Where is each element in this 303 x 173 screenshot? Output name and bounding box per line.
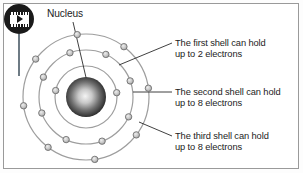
video-icon[interactable]: [4, 4, 34, 34]
nucleus-sphere: [66, 77, 106, 117]
electron-shell3-3: [92, 156, 98, 162]
electron-shell2-7: [67, 50, 73, 56]
electron-shell2-2: [63, 136, 69, 142]
third-shell-label: The third shell can hold up to 8 electro…: [175, 131, 269, 153]
nucleus-label: Nucleus: [47, 8, 83, 19]
leader-line-shell3: [139, 122, 172, 136]
electron-shell3-1: [20, 103, 26, 109]
electron-shell2-5: [127, 78, 133, 84]
play-triangle-icon: [17, 15, 23, 23]
electron-shell2-3: [99, 138, 105, 144]
electron-shell2-1: [39, 110, 45, 116]
electron-shell3-2: [45, 144, 51, 150]
electron-shell2-8: [40, 74, 46, 80]
electron-shell3-6: [121, 43, 127, 49]
atom-diagram-figure: Nucleus The first shell can hold up to 2…: [0, 0, 303, 173]
electron-shell3-7: [74, 31, 80, 37]
filmstrip-icon: [10, 12, 29, 27]
electron-shell3-4: [133, 132, 139, 138]
second-shell-label: The second shell can hold up to 8 electr…: [175, 87, 281, 109]
electron-shell2-6: [103, 51, 109, 57]
electron-shell2-4: [125, 114, 131, 120]
first-shell-label: The first shell can hold up to 2 electro…: [175, 38, 266, 60]
electron-shell3-8: [32, 56, 38, 62]
electron-shell1-1: [52, 87, 58, 93]
electron-shell1-2: [114, 89, 120, 95]
electron-shell3-5: [145, 85, 151, 91]
